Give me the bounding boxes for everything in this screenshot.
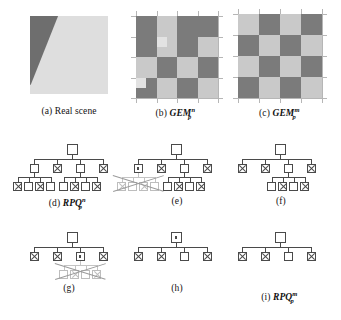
tree-subtree <box>230 144 330 194</box>
grid-cell-dark <box>198 16 219 37</box>
grid-cell-light <box>238 56 259 77</box>
tree-node-empty <box>163 182 172 191</box>
tree-node-crossed <box>92 182 101 191</box>
caption-b: (b) GEMnp <box>118 106 236 120</box>
caption-f-tag: (f) <box>276 196 286 206</box>
caption-a-tag: (a) <box>41 106 52 116</box>
grid-cell-light <box>280 56 301 77</box>
grid-cell-light <box>198 37 219 58</box>
tree-node-crossed <box>13 182 22 191</box>
tree-node-crossed <box>203 252 212 261</box>
caption-e-tag: (e) <box>172 196 183 206</box>
tree-subtree <box>126 144 226 194</box>
caption-i-tag: (i) <box>261 292 270 302</box>
grid-cell-dark <box>238 35 259 56</box>
caption-h: (h) <box>118 283 236 293</box>
tree-node-empty <box>180 252 189 261</box>
tree-node-empty <box>185 182 194 191</box>
grid-cell-anomaly <box>157 37 167 47</box>
tree-node-crossed <box>238 252 247 261</box>
tree-node-crossed <box>157 252 166 261</box>
grid-cell-dark <box>301 56 322 77</box>
caption-h-tag: (h) <box>171 283 182 293</box>
caption-f: (f) <box>222 196 340 206</box>
caption-i-sub: p <box>290 297 293 304</box>
caption-g: (g) <box>10 283 128 293</box>
tree-node-crossed <box>278 182 287 191</box>
tree-edge <box>272 177 305 178</box>
gem-m-image <box>238 14 322 98</box>
tree-node-crossed <box>261 252 270 261</box>
tree-edge <box>138 247 207 248</box>
grid-cell-light <box>301 77 322 98</box>
tree-edge <box>64 177 97 178</box>
tree-node-marked <box>171 232 182 243</box>
grid-cell-dark <box>301 14 322 35</box>
figure-canvas: (a) Real scene (b) GEMnp (c) GEMmp (d) R… <box>0 0 341 320</box>
grid-cell-light <box>238 14 259 35</box>
grid-cell-dark <box>157 57 178 78</box>
tree-subtree-pruned <box>22 232 122 282</box>
caption-g-tag: (g) <box>63 283 74 293</box>
grid-cell-light <box>259 35 280 56</box>
caption-d-sup: n <box>82 196 86 203</box>
grid-cell-light <box>157 16 178 37</box>
tree-node-crossed <box>174 182 183 191</box>
tree-node-crossed <box>307 252 316 261</box>
caption-c-sub: p <box>293 113 296 120</box>
dot-mark <box>175 236 177 239</box>
tree-g <box>22 232 122 280</box>
grid-cell-light <box>198 78 219 99</box>
grid-cell-light <box>259 77 280 98</box>
caption-e: (e) <box>118 196 236 206</box>
grid-cell-light <box>136 57 157 78</box>
tree-node-crossed <box>70 182 79 191</box>
tree-node-crossed <box>300 182 309 191</box>
grid-cell-dark <box>198 57 219 78</box>
grid-cell-dark <box>177 78 198 99</box>
caption-d-tag: (d) <box>49 198 60 208</box>
caption-c: (c) GEMmp <box>222 106 340 120</box>
tree-d <box>22 144 122 192</box>
tree-h <box>126 232 226 280</box>
grid-line-horizontal <box>131 98 223 99</box>
caption-a: (a) Real scene <box>10 106 128 116</box>
grid-cell-dark <box>136 16 157 37</box>
grid-cell-dark <box>136 37 157 58</box>
caption-c-base: GEM <box>272 108 294 118</box>
tree-node-crossed <box>196 182 205 191</box>
tree-node-crossed <box>134 252 143 261</box>
caption-a-text: Real scene <box>55 106 97 116</box>
grid-cell-dark <box>177 16 198 37</box>
caption-b-sup: n <box>191 106 195 113</box>
tree-i <box>230 232 330 280</box>
caption-d-sub: p <box>79 203 82 210</box>
grid-cell-dark <box>280 77 301 98</box>
tree-edge <box>242 247 311 248</box>
grid-cell-dark <box>259 56 280 77</box>
grid-line-vertical <box>322 9 323 103</box>
grid-cell-light <box>301 35 322 56</box>
grid-line-horizontal <box>233 98 327 99</box>
pruned-cross-out <box>55 263 106 279</box>
caption-c-tag: (c) <box>259 108 270 118</box>
grid-cell-dark <box>238 77 259 98</box>
caption-b-tag: (b) <box>156 108 167 118</box>
caption-i-sup: m <box>292 290 297 297</box>
real-scene-image <box>30 16 108 94</box>
grid-line-vertical <box>218 11 219 103</box>
grid-cell-dark <box>280 35 301 56</box>
tree-e <box>126 144 226 192</box>
grid-cell-light <box>280 14 301 35</box>
grid-cell-dark <box>259 14 280 35</box>
caption-i: (i) RPQmp <box>222 290 340 304</box>
grid-cell-anomaly <box>136 78 146 88</box>
tree-subtree <box>22 144 122 194</box>
grid-cell-dark <box>177 37 198 58</box>
grid-cell-light <box>177 57 198 78</box>
grid-cell-light <box>157 78 178 99</box>
tree-node-empty <box>284 252 293 261</box>
gem-n-image <box>136 16 218 98</box>
tree-node-empty <box>81 182 90 191</box>
tree-node-empty <box>289 182 298 191</box>
